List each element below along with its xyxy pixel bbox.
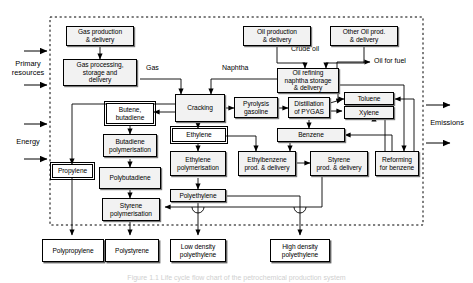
gas-processing-line3: delivery [89, 76, 111, 83]
styrene-poly-line1: Styrene [120, 202, 142, 209]
energy-label: Energy [4, 138, 52, 147]
product-low-density-polyethylene[interactable]: Low density polyethylene [170, 239, 226, 262]
ethylene-poly-line2: polymerisation [177, 164, 219, 171]
node-other-oil-production[interactable]: Other Oil prod. & delivery [330, 26, 398, 46]
ldpe-line1: Low density [181, 243, 215, 250]
hdpe-line1: High density [282, 243, 318, 250]
reforming-line2: for benzene [380, 164, 414, 171]
node-oil-production[interactable]: Oil production & delivery [243, 26, 311, 46]
edge-label-gas: Gas [146, 64, 159, 71]
gas-processing-line2: storage and [83, 69, 117, 76]
propylene-label: Propylene [58, 167, 87, 175]
butene-line2: butadiene [116, 114, 145, 121]
node-cracking[interactable]: Cracking [175, 94, 225, 122]
reforming-line1: Reforming [382, 156, 412, 163]
distillation-line2: of PYGAS [294, 108, 324, 115]
node-toluene[interactable]: Toluene [344, 92, 394, 105]
pyrolysis-line2: gasoline [244, 108, 268, 115]
node-gas-processing[interactable]: Gas processing, storage and delivery [63, 59, 137, 86]
cracking-label: Cracking [187, 104, 213, 112]
diagram-canvas: Primary resources Energy Emissions Gas N… [0, 0, 473, 283]
node-polybutadiene[interactable]: Polybutadiene [99, 167, 161, 189]
styrene-prod-line2: prod. & delivery [316, 164, 361, 171]
oil-production-line2: & delivery [263, 36, 291, 43]
ethylene-poly-line1: Ethylene [185, 156, 210, 163]
butadiene-poly-line2: polymerisation [109, 146, 151, 153]
node-reforming-for-benzene[interactable]: Reforming for benzene [375, 151, 419, 176]
node-distillation-pygas[interactable]: Distillation of PYGAS [288, 97, 330, 118]
node-propylene[interactable]: Propylene [52, 164, 93, 178]
node-butene-butadiene[interactable]: Butene, butadiene [106, 103, 154, 124]
gas-production-line1: Gas production [78, 28, 122, 35]
figure-caption: Figure 1.1 Life cycle flow chart of the … [0, 274, 473, 283]
emissions-label: Emissions [424, 119, 470, 128]
edge-label-oil-for-fuel: Oil for fuel [374, 57, 406, 64]
gas-production-line2: & delivery [86, 36, 114, 43]
node-ethylene[interactable]: Ethylene [172, 128, 226, 142]
node-benzene[interactable]: Benzene [277, 128, 345, 142]
distillation-line1: Distillation [294, 100, 323, 107]
node-pyrolysis-gasoline[interactable]: Pyrolysis gasoline [234, 97, 278, 118]
ethylene-label: Ethylene [186, 131, 211, 139]
polystyrene-label: Polystyrene [115, 247, 149, 255]
gas-processing-line1: Gas processing, [77, 61, 124, 68]
node-xylene[interactable]: Xylene [344, 106, 394, 119]
node-ethylbenzene-prod[interactable]: Ethylbenzene prod. & delivery [238, 151, 296, 176]
node-butadiene-polymerisation[interactable]: Butadiene polymerisation [103, 134, 157, 157]
benzene-label: Benzene [298, 131, 324, 139]
toluene-label: Toluene [358, 95, 381, 103]
oil-production-line1: Oil production [257, 28, 297, 35]
pyrolysis-line1: Pyrolysis [243, 100, 269, 107]
product-polypropylene[interactable]: Polypropylene [42, 239, 104, 262]
edge-label-crude-oil: Crude oil [291, 45, 319, 52]
node-oil-refining[interactable]: Oil refining naphtha storage & delivery [277, 68, 339, 93]
polypropylene-label: Polypropylene [52, 247, 93, 255]
edge-label-naphtha: Naphtha [222, 64, 248, 71]
styrene-poly-line2: polymerisation [110, 210, 152, 217]
other-oil-line2: & delivery [350, 36, 378, 43]
hdpe-line2: polyethylene [282, 251, 318, 258]
product-high-density-polyethylene[interactable]: High density polyethylene [270, 239, 330, 262]
polyethylene-label: Polyethylene [179, 192, 216, 200]
oil-refining-line3: & delivery [294, 84, 322, 91]
styrene-prod-line1: Styrene [328, 156, 350, 163]
xylene-label: Xylene [359, 109, 379, 117]
node-styrene-polymerisation[interactable]: Styrene polymerisation [102, 198, 160, 221]
primary-resources-line2: resources [12, 68, 44, 77]
butadiene-poly-line1: Butadiene [115, 138, 144, 145]
polybutadiene-label: Polybutadiene [109, 174, 150, 182]
node-polyethylene[interactable]: Polyethylene [170, 189, 226, 202]
other-oil-line1: Other Oil prod. [343, 28, 386, 35]
node-ethylene-polymerisation[interactable]: Ethylene polymerisation [170, 151, 226, 176]
node-gas-production[interactable]: Gas production & delivery [66, 26, 134, 46]
ldpe-line2: polyethylene [180, 251, 216, 258]
oil-refining-line2: naphtha storage [285, 77, 332, 84]
ethylbenzene-line1: Ethylbenzene [247, 156, 286, 163]
primary-resources-label: Primary resources [4, 60, 52, 77]
node-styrene-prod[interactable]: Styrene prod. & delivery [310, 151, 368, 176]
ethylbenzene-line2: prod. & delivery [244, 164, 289, 171]
product-polystyrene[interactable]: Polystyrene [105, 239, 159, 262]
butene-line1: Butene, [119, 106, 141, 113]
oil-refining-line1: Oil refining [293, 69, 324, 76]
